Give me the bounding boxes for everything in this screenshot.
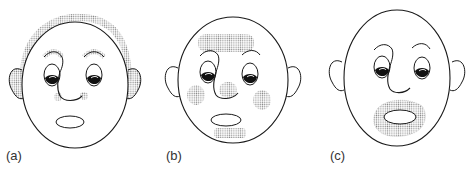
- mouth: [56, 116, 84, 128]
- face-b-drawing: [158, 0, 316, 171]
- mouth: [384, 110, 416, 124]
- panel-label: (c): [330, 148, 345, 163]
- left-ear: [329, 61, 344, 91]
- panel-label: (a): [6, 148, 22, 163]
- forehead-shading: [198, 34, 254, 52]
- nose-shading-right: [80, 92, 88, 100]
- mouth: [211, 114, 241, 126]
- face-a-drawing: [0, 0, 158, 171]
- face-outline: [22, 22, 128, 148]
- panel-b: (b): [158, 0, 316, 171]
- panel-a: (a): [0, 0, 158, 171]
- face-c-drawing: [316, 0, 474, 171]
- panel-label: (b): [166, 148, 182, 163]
- right-ear: [450, 61, 465, 91]
- panel-c: (c): [316, 0, 474, 171]
- chin-shading: [214, 128, 246, 138]
- left-cheek-shading: [187, 85, 205, 105]
- right-cheek-shading: [253, 90, 271, 110]
